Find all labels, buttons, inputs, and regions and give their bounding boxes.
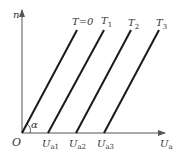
x-intercept-label-ua3: Ua3: [97, 138, 114, 151]
line-label-t0: T=0: [72, 16, 94, 27]
angle-label: α: [31, 119, 38, 130]
angle-arc: [27, 124, 30, 133]
line-label-t2: T2: [128, 17, 139, 31]
y-axis-label: n: [13, 9, 19, 20]
line-t1: [48, 30, 104, 133]
motor-speed-characteristic-diagram: n O α T=0 T1 T2 T3 Ua1 Ua2 Ua3 Ua: [0, 0, 182, 159]
x-intercept-label-ua1: Ua1: [42, 138, 59, 151]
line-label-t1: T1: [101, 15, 112, 29]
line-t2: [76, 30, 131, 133]
origin-label: O: [12, 136, 21, 149]
x-axis-label: Ua: [160, 138, 173, 151]
line-t3: [104, 30, 159, 133]
line-label-t3: T3: [156, 17, 167, 31]
line-t0: [22, 30, 77, 133]
x-intercept-label-ua2: Ua2: [69, 138, 86, 151]
